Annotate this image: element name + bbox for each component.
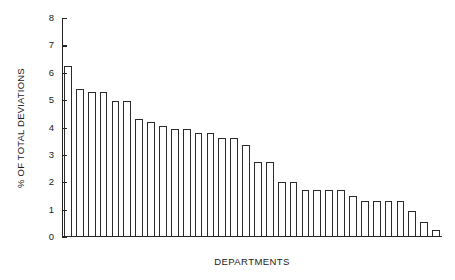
y-axis-tick-label: 7 xyxy=(38,40,54,50)
y-axis-tick-mark xyxy=(62,237,67,238)
bar xyxy=(290,182,298,235)
y-axis-tick-mark xyxy=(62,210,67,211)
y-axis-tick-mark xyxy=(62,45,67,46)
y-axis-tick-mark xyxy=(62,18,67,19)
bar xyxy=(349,196,357,236)
bar xyxy=(76,89,84,235)
x-axis-title: DEPARTMENTS xyxy=(62,256,442,267)
y-axis-tick-labels: 012345678 xyxy=(38,12,54,244)
bar xyxy=(432,230,440,235)
bar xyxy=(135,119,143,235)
bar xyxy=(254,162,262,236)
y-axis-tick-label: 1 xyxy=(38,205,54,215)
bar xyxy=(408,211,416,236)
bar xyxy=(313,190,321,235)
y-axis-tick-label: 3 xyxy=(38,150,54,160)
y-axis-tick-mark xyxy=(62,155,67,156)
bar xyxy=(373,201,381,235)
bar xyxy=(218,138,226,235)
bar xyxy=(123,101,131,235)
bar xyxy=(147,122,155,236)
bar xyxy=(266,162,274,236)
y-axis-tick-mark xyxy=(62,182,67,183)
bar xyxy=(183,129,191,236)
y-axis-tick-mark xyxy=(62,128,67,129)
y-axis-tick-label: 6 xyxy=(38,68,54,78)
y-axis-tick-label: 8 xyxy=(38,13,54,23)
y-axis-title: % OF TOTAL DEVIATIONS xyxy=(14,18,28,238)
bar xyxy=(325,190,333,235)
y-axis-tick-label: 0 xyxy=(38,232,54,242)
bar xyxy=(230,138,238,235)
y-axis-tick-mark xyxy=(62,100,67,101)
plot-area xyxy=(62,18,442,237)
bar xyxy=(397,201,405,235)
bar xyxy=(420,222,428,236)
bar xyxy=(385,201,393,235)
y-axis-tick-label: 4 xyxy=(38,123,54,133)
bar xyxy=(278,182,286,235)
bar xyxy=(112,101,120,235)
bars-layer xyxy=(62,18,442,236)
bar xyxy=(337,190,345,235)
pareto-bar-chart: % OF TOTAL DEVIATIONS 012345678 DEPARTME… xyxy=(0,0,455,280)
bar xyxy=(171,129,179,236)
y-axis-tick-mark xyxy=(62,73,67,74)
bar xyxy=(207,133,215,236)
bar xyxy=(361,201,369,235)
y-axis-tick-label: 5 xyxy=(38,95,54,105)
bar xyxy=(242,145,250,235)
x-axis-line xyxy=(62,236,442,237)
bar xyxy=(159,126,167,236)
bar xyxy=(195,133,203,236)
bar xyxy=(302,190,310,235)
y-axis-tick-label: 2 xyxy=(38,177,54,187)
bar xyxy=(100,92,108,236)
bar xyxy=(88,92,96,236)
